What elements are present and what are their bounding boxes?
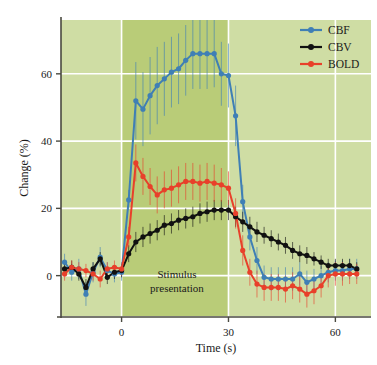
data-point-bold bbox=[90, 271, 95, 276]
x-tick-label: 30 bbox=[223, 326, 235, 338]
data-point-cbf bbox=[304, 280, 309, 285]
data-point-bold bbox=[283, 286, 288, 291]
x-tick-label: 0 bbox=[119, 326, 125, 338]
data-point-bold bbox=[326, 273, 331, 278]
data-point-cbv bbox=[219, 207, 224, 212]
data-point-bold bbox=[262, 285, 267, 290]
data-point-cbv bbox=[204, 209, 209, 214]
data-point-cbv bbox=[105, 275, 110, 280]
data-point-cbv bbox=[90, 266, 95, 271]
data-point-bold bbox=[105, 266, 110, 271]
data-point-cbf bbox=[297, 271, 302, 276]
data-point-cbv bbox=[112, 270, 117, 275]
data-point-bold bbox=[212, 181, 217, 186]
data-point-bold bbox=[311, 288, 316, 293]
data-point-cbf bbox=[62, 260, 67, 265]
data-point-cbf bbox=[190, 51, 195, 56]
legend-marker-cbf bbox=[308, 27, 314, 33]
data-point-cbv bbox=[212, 207, 217, 212]
data-point-cbv bbox=[62, 266, 67, 271]
data-point-cbv bbox=[290, 248, 295, 253]
data-point-cbv bbox=[254, 229, 259, 234]
data-point-cbf bbox=[155, 83, 160, 88]
data-point-cbf bbox=[212, 51, 217, 56]
legend-label-cbf: CBF bbox=[328, 24, 350, 36]
x-tick-label: 60 bbox=[330, 326, 342, 338]
data-point-cbv bbox=[226, 207, 231, 212]
legend-marker-cbv bbox=[308, 44, 314, 50]
data-point-cbv bbox=[162, 223, 167, 228]
data-point-bold bbox=[276, 285, 281, 290]
data-point-bold bbox=[162, 187, 167, 192]
data-point-bold bbox=[340, 271, 345, 276]
data-point-cbf bbox=[276, 276, 281, 281]
data-point-cbf bbox=[254, 258, 259, 263]
data-point-cbf bbox=[204, 51, 209, 56]
y-tick-label: 60 bbox=[41, 68, 53, 80]
data-point-bold bbox=[176, 182, 181, 187]
data-point-cbf bbox=[219, 71, 224, 76]
data-point-cbv bbox=[155, 228, 160, 233]
legend-label-cbv: CBV bbox=[328, 41, 352, 53]
data-point-bold bbox=[290, 283, 295, 288]
data-point-bold bbox=[347, 271, 352, 276]
data-point-cbv bbox=[283, 243, 288, 248]
data-point-bold bbox=[140, 174, 145, 179]
data-point-bold bbox=[233, 211, 238, 216]
data-point-cbv bbox=[190, 214, 195, 219]
data-point-cbv bbox=[347, 263, 352, 268]
data-point-cbv bbox=[83, 285, 88, 290]
data-point-cbv bbox=[247, 224, 252, 229]
data-point-cbf bbox=[126, 197, 131, 202]
data-point-bold bbox=[183, 179, 188, 184]
data-point-cbv bbox=[183, 216, 188, 221]
data-point-bold bbox=[333, 271, 338, 276]
data-point-cbv bbox=[262, 233, 267, 238]
data-point-cbf bbox=[197, 51, 202, 56]
data-point-bold bbox=[83, 268, 88, 273]
figure-container: 020406003060 Change (%) Time (s) Stimulu… bbox=[0, 0, 377, 365]
data-point-bold bbox=[297, 286, 302, 291]
data-point-bold bbox=[240, 248, 245, 253]
data-point-cbv bbox=[133, 239, 138, 244]
data-point-cbf bbox=[83, 292, 88, 297]
data-point-cbf bbox=[247, 234, 252, 239]
data-point-bold bbox=[219, 182, 224, 187]
data-point-cbf bbox=[262, 275, 267, 280]
data-point-cbv bbox=[297, 251, 302, 256]
stimulus-annotation-line2: presentation bbox=[150, 282, 204, 294]
data-point-bold bbox=[319, 283, 324, 288]
data-point-cbf bbox=[176, 66, 181, 71]
data-point-cbv bbox=[176, 218, 181, 223]
data-point-cbf bbox=[283, 276, 288, 281]
data-point-bold bbox=[133, 160, 138, 165]
data-point-cbf bbox=[147, 93, 152, 98]
line-chart: 020406003060 Change (%) Time (s) Stimulu… bbox=[0, 0, 377, 365]
y-tick-label: 20 bbox=[41, 202, 53, 214]
data-point-cbf bbox=[162, 76, 167, 81]
data-point-bold bbox=[126, 234, 131, 239]
data-point-bold bbox=[169, 186, 174, 191]
data-point-bold bbox=[112, 265, 117, 270]
data-point-bold bbox=[254, 281, 259, 286]
data-point-bold bbox=[226, 186, 231, 191]
data-point-cbf bbox=[226, 73, 231, 78]
data-point-cbf bbox=[269, 276, 274, 281]
legend-marker-bold bbox=[308, 61, 314, 67]
data-point-bold bbox=[247, 270, 252, 275]
data-point-cbf bbox=[133, 98, 138, 103]
data-point-bold bbox=[197, 181, 202, 186]
data-point-bold bbox=[269, 285, 274, 290]
data-point-cbv bbox=[304, 253, 309, 258]
data-point-bold bbox=[304, 292, 309, 297]
y-tick-label: 40 bbox=[41, 135, 53, 147]
data-point-cbv bbox=[240, 219, 245, 224]
data-point-cbv bbox=[197, 211, 202, 216]
data-point-cbv bbox=[340, 263, 345, 268]
data-point-cbf bbox=[69, 270, 74, 275]
data-point-bold bbox=[354, 271, 359, 276]
data-point-cbv bbox=[76, 271, 81, 276]
data-point-cbv bbox=[354, 266, 359, 271]
data-point-cbf bbox=[240, 199, 245, 204]
stimulus-annotation-line1: Stimulus bbox=[157, 268, 196, 280]
